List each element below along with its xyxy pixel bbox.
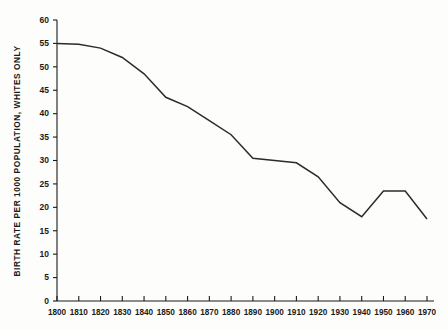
y-axis-title-text: BIRTH RATE PER 1000 POPULATION, WHITES O… xyxy=(12,46,22,277)
y-tick-label: 0 xyxy=(44,296,49,306)
y-tick-label: 30 xyxy=(40,155,50,165)
x-tick-label: 1880 xyxy=(222,308,241,317)
y-tick-label: 35 xyxy=(40,132,50,142)
y-tick-label: 15 xyxy=(40,226,50,236)
x-tick-label: 1960 xyxy=(396,308,415,317)
y-tick-label: 45 xyxy=(40,85,50,95)
x-tick-label: 1910 xyxy=(287,308,306,317)
y-axis-title: BIRTH RATE PER 1000 POPULATION, WHITES O… xyxy=(12,46,22,277)
x-tick-label: 1950 xyxy=(374,308,393,317)
chart-canvas: BIRTH RATE PER 1000 POPULATION, WHITES O… xyxy=(0,0,448,330)
x-tick-label: 1850 xyxy=(157,308,176,317)
y-tick-label: 40 xyxy=(40,108,50,118)
y-tick-label: 20 xyxy=(40,202,50,212)
x-tick-label: 1840 xyxy=(135,308,154,317)
y-tick-label: 50 xyxy=(40,62,50,72)
x-tick-label: 1930 xyxy=(331,308,350,317)
x-tick-label: 1900 xyxy=(266,308,285,317)
x-tick-label: 1940 xyxy=(353,308,372,317)
y-tick-label: 10 xyxy=(40,249,50,259)
x-tick-label: 1920 xyxy=(309,308,328,317)
x-tick-label: 1800 xyxy=(48,308,67,317)
y-tick-label: 25 xyxy=(40,179,50,189)
y-tick-label: 5 xyxy=(44,272,49,282)
data-series-line xyxy=(57,43,427,219)
birth-rate-line-chart: BIRTH RATE PER 1000 POPULATION, WHITES O… xyxy=(0,0,448,330)
y-tick-label: 55 xyxy=(40,38,50,48)
x-tick-label: 1970 xyxy=(418,308,437,317)
x-tick-label: 1870 xyxy=(200,308,219,317)
x-tick-label: 1860 xyxy=(178,308,197,317)
x-tick-label: 1830 xyxy=(113,308,132,317)
y-axis-ticks: 051015202530354045505560 xyxy=(40,15,57,306)
x-tick-label: 1810 xyxy=(70,308,89,317)
x-tick-label: 1820 xyxy=(91,308,110,317)
x-tick-label: 1890 xyxy=(244,308,263,317)
x-axis-ticks: 1800181018201830184018501860187018801890… xyxy=(48,296,437,317)
y-tick-label: 60 xyxy=(40,15,50,25)
